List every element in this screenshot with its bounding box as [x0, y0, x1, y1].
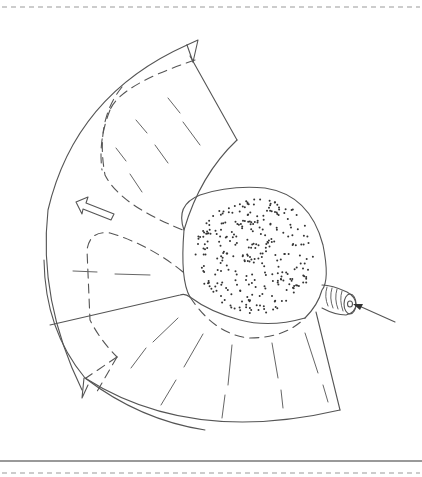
balloon-sac	[182, 187, 327, 323]
unfold-direction-arrow-icon	[76, 197, 114, 220]
inflation-nozzle	[322, 285, 356, 315]
inflow-arrow-icon	[353, 304, 395, 322]
fan-sheet	[44, 40, 340, 430]
diagram-figure	[0, 0, 422, 477]
sac-stipple	[195, 199, 314, 314]
